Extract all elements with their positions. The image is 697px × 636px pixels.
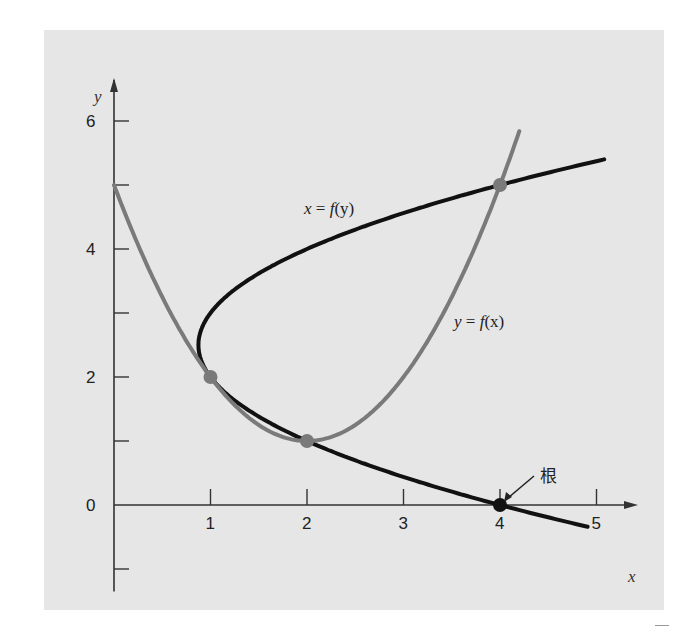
x-tick-label: 3 — [399, 514, 408, 533]
intersection-point — [204, 370, 218, 384]
y-tick-label: 6 — [86, 112, 95, 131]
chart-labels: y x x = f(y) y = f(x) 根 — [92, 87, 636, 586]
page-corner-mark — [655, 625, 669, 626]
root-arrow-head-icon — [504, 492, 512, 502]
y-tick-label: 4 — [86, 240, 95, 259]
intersection-point — [300, 434, 314, 448]
curves — [114, 131, 604, 527]
root-label: 根 — [540, 466, 557, 486]
x-axis-arrow-icon — [624, 501, 638, 509]
y-tick-label: 0 — [86, 496, 95, 515]
x-tick-label: 4 — [495, 514, 504, 533]
x-tick-label: 2 — [302, 514, 311, 533]
curve-label-x-equals-f-of-y: x = f(y) — [303, 199, 354, 218]
y-axis-arrow-icon — [110, 78, 118, 92]
x-tick-label: 1 — [206, 514, 215, 533]
x-axis-label: x — [627, 567, 636, 586]
chart-plot: 024612345 y x x = f(y) y = f(x) 根 — [44, 30, 664, 610]
root-arrow-line — [508, 476, 534, 498]
curve-label-y-equals-f-of-x: y = f(x) — [452, 312, 504, 331]
x-tick-label: 5 — [592, 514, 601, 533]
intersection-point — [493, 178, 507, 192]
chart-panel: 024612345 y x x = f(y) y = f(x) 根 — [44, 30, 664, 610]
curve-y-equals-f-of-x — [114, 131, 519, 441]
y-tick-label: 2 — [86, 368, 95, 387]
axes: 024612345 — [86, 78, 638, 591]
y-axis-label: y — [92, 87, 102, 106]
